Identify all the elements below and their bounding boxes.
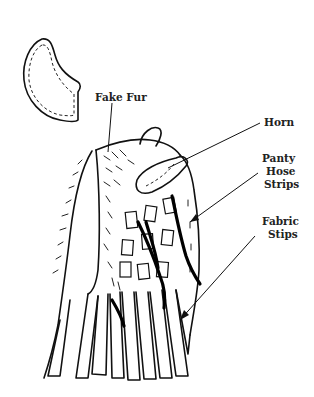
label-fabric-line2: Stips <box>268 228 298 240</box>
label-panty-hose-line2: Hose <box>266 165 296 177</box>
fabric-patches <box>120 197 176 279</box>
diagram-canvas: Fake Fur Horn Panty Hose Strips Fabric S… <box>0 0 314 397</box>
label-fake-fur: Fake Fur <box>95 91 147 103</box>
label-horn: Horn <box>264 116 294 128</box>
label-fabric-line1: Fabric <box>262 215 299 227</box>
horn-pattern-piece <box>24 39 81 122</box>
label-panty-hose-line3: Strips <box>264 178 299 190</box>
fabric-fringe-strips <box>48 290 190 380</box>
panty-hose-leader <box>190 173 258 222</box>
horn-leader <box>168 123 260 168</box>
label-panty-hose-line1: Panty <box>262 152 296 164</box>
